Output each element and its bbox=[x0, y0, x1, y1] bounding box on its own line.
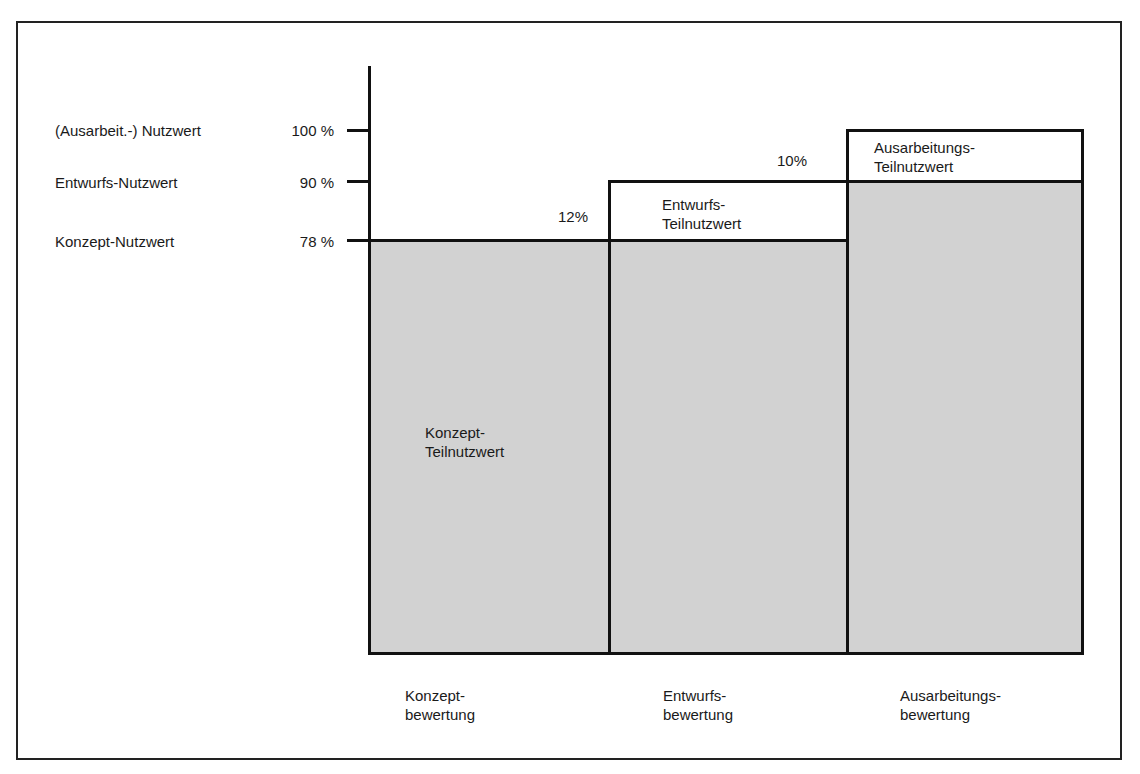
y-tick-78: 78 % bbox=[274, 232, 334, 251]
tick-mark-90 bbox=[347, 180, 369, 183]
tick-mark-78 bbox=[347, 239, 369, 242]
entwurfs-teilnutzwert-label: Entwurfs- Teilnutzwert bbox=[662, 195, 741, 233]
bar-entwurf-base bbox=[608, 239, 849, 655]
y-tick-90: 90 % bbox=[274, 173, 334, 192]
x-label-entwurfsbewertung: Entwurfs- bewertung bbox=[663, 686, 733, 724]
delta-10-label: 10% bbox=[777, 151, 807, 170]
ausarbeitungs-teilnutzwert-label: Ausarbeitungs- Teilnutzwert bbox=[874, 138, 975, 176]
y-tick-100: 100 % bbox=[274, 121, 334, 140]
bar-ausarbeitung-base bbox=[846, 180, 1084, 655]
y-label-konzept-nutzwert: Konzept-Nutzwert bbox=[55, 232, 174, 251]
x-label-konzeptbewertung: Konzept- bewertung bbox=[405, 686, 475, 724]
tick-mark-100 bbox=[347, 129, 369, 132]
y-label-entwurfs-nutzwert: Entwurfs-Nutzwert bbox=[55, 173, 178, 192]
y-label-ausarbeit-nutzwert: (Ausarbeit.-) Nutzwert bbox=[55, 121, 201, 140]
konzept-teilnutzwert-label: Konzept- Teilnutzwert bbox=[425, 423, 504, 461]
delta-12-label: 12% bbox=[558, 207, 588, 226]
x-label-ausarbeitungsbewertung: Ausarbeitungs- bewertung bbox=[900, 686, 1001, 724]
